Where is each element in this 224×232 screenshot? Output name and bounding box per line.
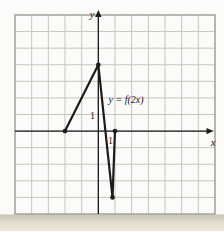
x-axis-label: x bbox=[210, 137, 216, 148]
x-axis-arrowhead-icon bbox=[207, 128, 214, 134]
x-axis-tick-label-1: 1 bbox=[108, 135, 113, 146]
curve-vertex-dot bbox=[113, 129, 118, 134]
y-axis-tick-label-1: 1 bbox=[90, 110, 95, 121]
page-shadow-band bbox=[0, 215, 224, 232]
curve-vertex-dot bbox=[63, 129, 68, 134]
function-graph-figure: y x 1 1 y = f(2x) bbox=[0, 0, 224, 231]
curve-vertex-dot bbox=[96, 62, 101, 67]
y-axis-arrowhead-icon bbox=[95, 10, 101, 17]
curve-equation-label: y = f(2x) bbox=[108, 94, 145, 106]
curve-vertex-dot bbox=[110, 195, 115, 200]
scanned-graph-page: y x 1 1 y = f(2x) bbox=[0, 0, 224, 231]
y-axis-label: y bbox=[89, 9, 95, 20]
grid-lines bbox=[15, 15, 215, 214]
axes bbox=[15, 10, 214, 214]
